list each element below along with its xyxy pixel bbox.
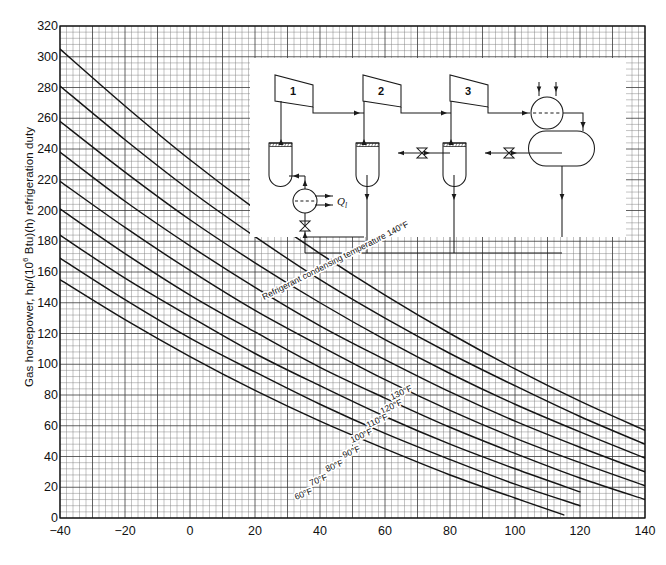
inset-panel [250,58,626,237]
compressor-1-label: 1 [290,85,296,97]
plot-svg: 1 2 3 Ql Refrigerant condensing temperat… [0,0,666,565]
inset-process-diagram: 1 2 3 Ql [250,58,626,253]
compressor-2-label: 2 [378,85,384,97]
figure-gas-horsepower-chart: Gas horsepower, hp/(106 Btu)(h) refriger… [0,0,666,565]
compressor-3-label: 3 [465,85,471,97]
